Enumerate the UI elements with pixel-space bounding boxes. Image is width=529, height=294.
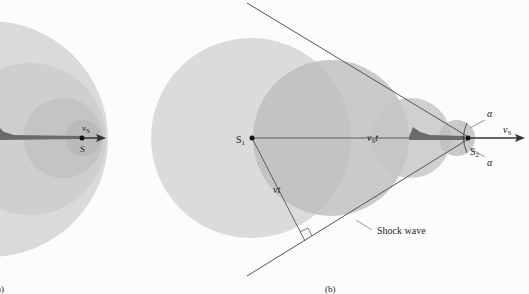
panel-a: vS S (a): [0, 21, 108, 294]
alpha-label-top: α: [487, 108, 493, 119]
source-dot-s2: [466, 136, 471, 141]
source-dot-a: [80, 136, 85, 141]
doppler-shock-diagram: vS S (a) S1 S2 vSt vt vS α: [0, 0, 529, 294]
panel-a-label: (a): [0, 284, 4, 294]
panel-b-label: (b): [325, 284, 336, 294]
shock-wave-pointer: [356, 220, 372, 230]
source-label-a: S: [80, 144, 85, 154]
alpha-pointer-top: [470, 120, 485, 128]
source-dot-s1: [250, 136, 255, 141]
vt-label: vt: [273, 184, 280, 195]
alpha-label-bottom: α: [487, 157, 493, 168]
shock-wave-label: Shock wave: [377, 225, 426, 236]
velocity-label-b: vS: [503, 124, 511, 137]
s2-label: S2: [470, 146, 480, 159]
panel-b: S1 S2 vSt vt vS α α Shock wave (b): [151, 3, 525, 294]
